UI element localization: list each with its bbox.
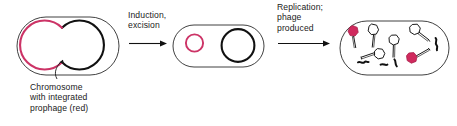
stage-3-cell-group [340,21,449,75]
caption-line-1: Chromosome [30,82,83,92]
dna-fragment-1 [358,62,369,63]
stage-2-cell-group [173,25,264,67]
transition-label-line-2: excision [128,20,160,30]
transition-label-replication-phage-produced: Replication;phageproduced [277,2,323,33]
stage-1-cell-group [17,17,119,75]
transition-label-line-1: Replication; [277,2,323,12]
transition-label-line-1: Induction, [128,10,166,20]
transition-label-induction-excision: Induction,excision [128,10,166,31]
prophage-induction-figure: Induction,excision Replication;phageprod… [0,0,457,126]
transition-arrow-2 [278,41,330,47]
transition-arrow-1 [129,41,167,47]
caption-line-3: prophage (red) [30,103,88,113]
caption-chromosome-with-integrated-prophage: Chromosomewith integratedprophage (red) [30,82,88,113]
caption-line-2: with integrated [30,92,87,102]
transition-label-line-2: phage [277,12,301,22]
transition-label-line-3: produced [277,23,314,33]
dna-fragment-2 [381,64,388,65]
